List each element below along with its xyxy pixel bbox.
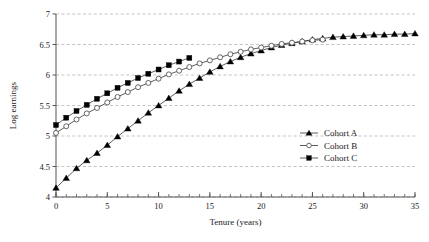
data-point-marker bbox=[207, 69, 214, 75]
data-point-marker bbox=[177, 59, 182, 64]
data-point-marker bbox=[156, 67, 161, 72]
data-point-marker bbox=[155, 102, 162, 108]
x-tick-label: 30 bbox=[359, 201, 368, 211]
log-earnings-tenure-chart: 44.555.566.5705101520253035Tenure (years… bbox=[0, 0, 429, 242]
data-point-marker bbox=[125, 80, 130, 85]
data-point-marker bbox=[259, 45, 264, 50]
x-tick-label: 15 bbox=[206, 201, 215, 211]
data-point-marker bbox=[177, 68, 182, 73]
x-tick-label: 5 bbox=[105, 201, 109, 211]
data-point-marker bbox=[95, 105, 100, 110]
y-tick-label: 4.5 bbox=[39, 162, 50, 172]
series-line bbox=[56, 58, 189, 125]
data-point-marker bbox=[64, 115, 69, 120]
y-tick-label: 5.5 bbox=[39, 101, 50, 111]
data-point-marker bbox=[166, 72, 171, 77]
data-point-marker bbox=[105, 91, 110, 96]
data-point-marker bbox=[279, 41, 284, 46]
data-point-marker bbox=[95, 96, 100, 101]
data-point-marker bbox=[176, 88, 183, 94]
data-point-marker bbox=[187, 65, 192, 70]
data-point-marker bbox=[64, 124, 69, 129]
data-point-marker bbox=[186, 81, 193, 87]
y-tick-label: 4 bbox=[46, 192, 51, 202]
data-point-marker bbox=[269, 43, 274, 48]
data-point-marker bbox=[115, 94, 120, 99]
x-tick-label: 0 bbox=[54, 201, 58, 211]
legend-label: Cohort B bbox=[324, 141, 357, 151]
data-point-marker bbox=[412, 30, 419, 36]
y-axis-label: Log earnings bbox=[8, 81, 18, 129]
data-point-marker bbox=[156, 76, 161, 81]
data-point-marker bbox=[310, 38, 315, 43]
legend-marker-filled-square bbox=[307, 156, 312, 161]
legend-label: Cohort C bbox=[324, 153, 357, 163]
chart-figure: 44.555.566.5705101520253035Tenure (years… bbox=[0, 0, 429, 242]
legend-label: Cohort A bbox=[324, 128, 358, 138]
gridlines bbox=[56, 14, 415, 197]
data-point-marker bbox=[238, 49, 243, 54]
data-point-marker bbox=[289, 40, 294, 45]
data-point-marker bbox=[146, 71, 151, 76]
data-point-marker bbox=[136, 85, 141, 90]
data-point-marker bbox=[300, 39, 305, 44]
data-point-marker bbox=[54, 130, 59, 135]
x-axis-label: Tenure (years) bbox=[209, 217, 261, 227]
data-point-marker bbox=[83, 157, 90, 163]
data-point-marker bbox=[218, 55, 223, 60]
data-point-marker bbox=[105, 100, 110, 105]
data-point-marker bbox=[146, 80, 151, 85]
data-point-marker bbox=[237, 54, 244, 60]
data-point-marker bbox=[74, 117, 79, 122]
data-point-marker bbox=[207, 58, 212, 63]
data-point-marker bbox=[84, 111, 89, 116]
y-tick-label: 7 bbox=[46, 9, 50, 19]
legend-item-cohort-c[interactable]: Cohort C bbox=[300, 153, 357, 163]
axes: 44.555.566.5705101520253035Tenure (years… bbox=[8, 9, 419, 227]
data-point-marker bbox=[74, 108, 79, 113]
y-tick-label: 6 bbox=[46, 70, 50, 80]
series-line bbox=[56, 34, 415, 188]
data-point-marker bbox=[125, 90, 130, 95]
legend-item-cohort-b[interactable]: Cohort B bbox=[300, 141, 357, 151]
data-point-marker bbox=[166, 95, 173, 101]
x-tick-label: 20 bbox=[257, 201, 266, 211]
data-point-marker bbox=[320, 37, 325, 42]
data-point-marker bbox=[196, 75, 203, 81]
legend: Cohort ACohort BCohort C bbox=[300, 128, 358, 163]
y-tick-label: 5 bbox=[46, 131, 50, 141]
data-point-marker bbox=[166, 63, 171, 68]
data-point-marker bbox=[228, 52, 233, 57]
data-point-marker bbox=[227, 58, 234, 64]
data-point-marker bbox=[54, 123, 59, 128]
series-cohort-c bbox=[54, 55, 192, 127]
data-point-marker bbox=[136, 76, 141, 81]
x-tick-label: 35 bbox=[411, 201, 420, 211]
data-point-marker bbox=[187, 55, 192, 60]
legend-marker-open-circle bbox=[307, 143, 312, 148]
data-point-marker bbox=[217, 63, 224, 69]
data-point-marker bbox=[115, 85, 120, 90]
data-point-marker bbox=[84, 102, 89, 107]
x-tick-label: 10 bbox=[154, 201, 163, 211]
x-tick-label: 25 bbox=[308, 201, 317, 211]
legend-item-cohort-a[interactable]: Cohort A bbox=[300, 128, 358, 138]
data-point-marker bbox=[145, 110, 152, 116]
data-point-marker bbox=[197, 61, 202, 66]
data-point-marker bbox=[248, 47, 253, 52]
y-tick-label: 6.5 bbox=[39, 40, 50, 50]
